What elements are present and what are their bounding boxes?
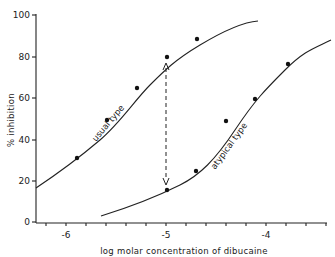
chart-canvas: 100 80 60 40 20 0 -6 -5 -4 log molar con… (0, 0, 335, 257)
atypical-type-points (165, 62, 290, 192)
y-tick-80: 80 (19, 52, 31, 62)
data-point (165, 188, 169, 192)
difference-arrow (163, 63, 169, 185)
x-tick-minus5: -5 (162, 230, 171, 240)
data-point (195, 37, 199, 41)
x-tick-labels: -6 -5 -4 (62, 230, 271, 240)
data-point (286, 62, 290, 66)
data-point (224, 119, 228, 123)
data-point (165, 55, 169, 59)
atypical-type-curve (101, 40, 331, 216)
x-axis-title: log molar concentration of dibucaine (100, 246, 268, 256)
y-axis (32, 14, 36, 223)
atypical-type-label: atypical type (209, 121, 250, 172)
y-axis-title: % inhibition (6, 93, 16, 147)
usual-type-label: usual type (90, 103, 126, 143)
usual-type-points (75, 37, 199, 160)
x-tick-minus6: -6 (62, 230, 71, 240)
y-tick-0: 0 (24, 217, 30, 227)
usual-type-curve (36, 21, 258, 188)
y-tick-100: 100 (13, 10, 30, 20)
data-point (194, 169, 198, 173)
y-tick-60: 60 (19, 93, 31, 103)
x-tick-minus4: -4 (262, 230, 271, 240)
data-point (253, 97, 257, 101)
y-tick-40: 40 (19, 135, 31, 145)
data-point (75, 156, 79, 160)
x-axis (36, 223, 327, 226)
y-tick-20: 20 (19, 176, 31, 186)
data-point (135, 86, 139, 90)
